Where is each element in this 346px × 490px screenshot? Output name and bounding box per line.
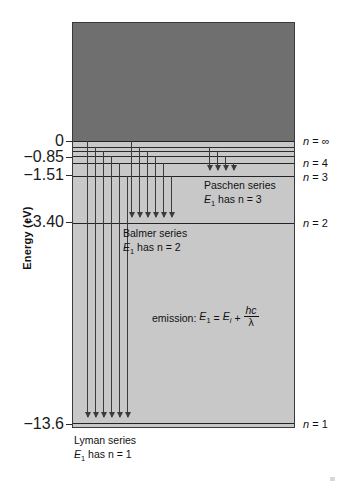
paschen-series-title: Paschen series bbox=[204, 179, 276, 193]
level-n-6 bbox=[73, 151, 294, 152]
equation-equals: = bbox=[214, 312, 220, 324]
fraction-numerator: hc bbox=[244, 305, 259, 316]
equation-plus: + bbox=[234, 312, 240, 324]
n-label-2: n = 2 bbox=[303, 217, 328, 229]
y-tick-136: −13.6 bbox=[24, 415, 64, 433]
emission-equation: emission: E1 = Ei + hc λ bbox=[152, 306, 259, 329]
energy-level-diagram: Energy (eV) 0 −0.85 −1.51 −3.40 −13.6 bbox=[0, 0, 346, 490]
paschen-arrow-4 bbox=[233, 163, 234, 170]
balmer-arrow-4 bbox=[155, 156, 156, 217]
lyman-arrow-2 bbox=[95, 147, 96, 417]
paschen-arrow-1 bbox=[209, 147, 210, 170]
level-n-infinity bbox=[73, 141, 294, 142]
balmer-arrow-2 bbox=[139, 147, 140, 217]
y-tick-085: −0.85 bbox=[24, 148, 64, 166]
lyman-series-title: Lyman series bbox=[74, 434, 136, 448]
fraction-denominator: λ bbox=[246, 317, 255, 328]
balmer-arrow-5 bbox=[163, 163, 164, 217]
paschen-arrow-3 bbox=[225, 156, 226, 170]
balmer-series-title: Balmer series bbox=[123, 227, 187, 241]
n-label-infinity: n = ∞ bbox=[303, 135, 330, 147]
equation-prefix: emission: bbox=[152, 312, 196, 324]
lyman-series-note: E1 has n = 1 bbox=[74, 448, 136, 466]
level-n-5 bbox=[73, 156, 294, 157]
lyman-arrow-4 bbox=[111, 156, 112, 417]
y-axis-tick-labels: 0 −0.85 −1.51 −3.40 −13.6 bbox=[0, 0, 68, 490]
n-label-3: n = 3 bbox=[303, 171, 328, 183]
lyman-arrow-6 bbox=[127, 176, 128, 417]
paschen-series-label: Paschen series E1 has n = 3 bbox=[204, 179, 276, 210]
balmer-arrow-1 bbox=[131, 141, 132, 217]
n-label-4: n = 4 bbox=[303, 157, 328, 169]
balmer-series-label: Balmer series E1 has n = 2 bbox=[123, 227, 187, 258]
equation-fraction: hc λ bbox=[244, 305, 259, 328]
scan-artifact bbox=[330, 477, 335, 481]
level-n-2 bbox=[73, 223, 294, 224]
lyman-series-label: Lyman series E1 has n = 1 bbox=[74, 434, 136, 465]
plot-area: Paschen series E1 has n = 3 Balmer serie… bbox=[72, 22, 295, 428]
balmer-arrow-3 bbox=[147, 151, 148, 217]
lyman-arrow-5 bbox=[119, 163, 120, 417]
lyman-arrow-3 bbox=[103, 151, 104, 417]
equation-rhs-term: Ei bbox=[223, 310, 232, 325]
y-tick-340: −3.40 bbox=[24, 213, 64, 231]
y-tick-151: −1.51 bbox=[24, 166, 64, 184]
level-n-3 bbox=[73, 176, 294, 177]
balmer-arrow-6 bbox=[171, 176, 172, 217]
lyman-arrow-1 bbox=[87, 141, 88, 417]
level-n-4 bbox=[73, 163, 294, 164]
balmer-series-note: E1 has n = 2 bbox=[123, 241, 187, 259]
level-n-7 bbox=[73, 147, 294, 148]
n-label-1: n = 1 bbox=[303, 418, 328, 430]
level-n-1 bbox=[73, 423, 294, 424]
equation-lhs: E1 bbox=[199, 310, 210, 325]
paschen-arrow-2 bbox=[217, 151, 218, 170]
continuum-band bbox=[73, 23, 294, 141]
paschen-series-note: E1 has n = 3 bbox=[204, 193, 276, 211]
